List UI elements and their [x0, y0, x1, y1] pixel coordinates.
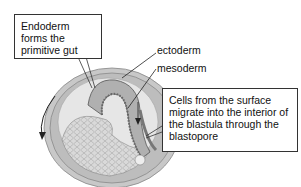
migration-callout: Cells from the surface migrate into the …: [162, 88, 298, 152]
ectoderm-label: ectoderm: [157, 44, 201, 56]
mesoderm-label: mesoderm: [157, 62, 207, 74]
endoderm-callout: Endoderm forms the primitive gut: [14, 14, 102, 59]
